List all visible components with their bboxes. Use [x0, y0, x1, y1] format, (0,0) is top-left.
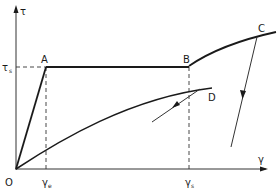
x-axis-label: γ [258, 154, 264, 165]
unloading-D-arrow-icon [172, 101, 180, 108]
x-axis-arrow-icon [260, 167, 268, 172]
point-C-label: C [258, 23, 265, 34]
hardening-segment-BC [189, 32, 276, 66]
unloading-C-arrow-icon [240, 90, 246, 99]
y-axis-arrow-icon [14, 5, 19, 13]
gamma-s-subscript: s [191, 182, 194, 189]
tau-s-label: τ [2, 62, 8, 73]
tau-s-subscript: s [9, 67, 12, 74]
point-D-label: D [208, 92, 216, 103]
point-A-label: A [41, 54, 48, 65]
elastic-segment-OA [16, 67, 46, 169]
stress-strain-diagram: τ γ O τ s γ e γ s A B C D [0, 0, 279, 194]
y-axis-label: τ [20, 6, 26, 17]
origin-label: O [5, 177, 13, 188]
gamma-e-subscript: e [48, 182, 52, 189]
point-B-label: B [183, 54, 190, 65]
loading-curve-OD [16, 88, 212, 169]
